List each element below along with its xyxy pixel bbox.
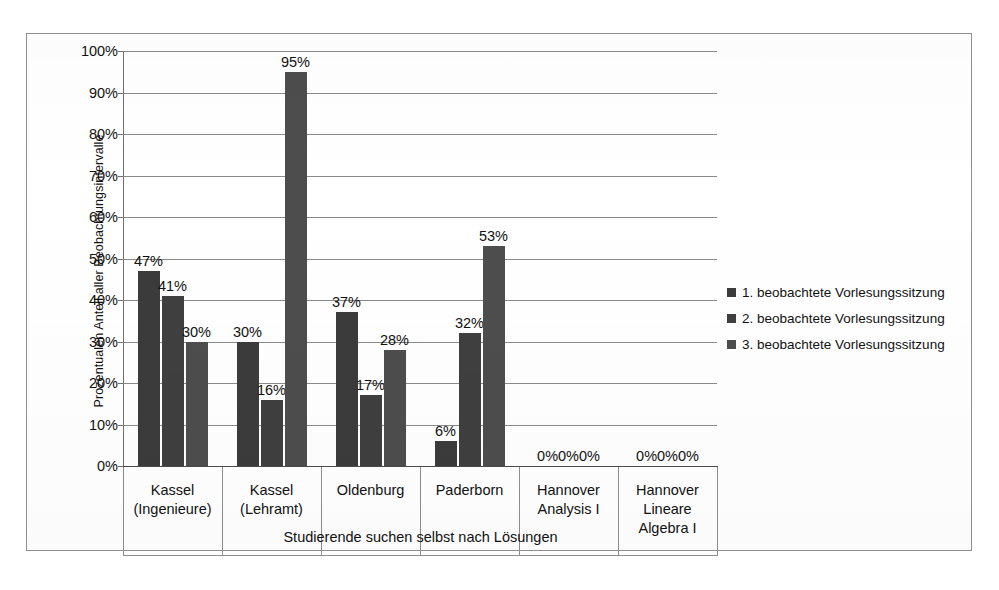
category-label-line: Kassel <box>222 481 321 500</box>
category-label: Oldenburg <box>321 481 420 500</box>
legend-item-label: 2. beobachtete Vorlesungssitzung <box>742 311 945 326</box>
gridline <box>123 259 717 260</box>
bar <box>285 72 307 466</box>
legend-swatch-icon <box>727 314 736 323</box>
bar <box>435 441 457 466</box>
category-label-line: (Lehramt) <box>222 500 321 519</box>
y-axis-ticks: 100%90%80%70%60%50%40%30%20%10%0% <box>65 51 118 467</box>
category-label-line: Oldenburg <box>321 481 420 500</box>
gridline <box>123 300 717 301</box>
bar <box>237 342 259 467</box>
legend-swatch-icon <box>727 340 736 349</box>
gridline <box>123 176 717 177</box>
y-axis-tick-label: 10% <box>68 418 118 433</box>
gridline <box>123 383 717 384</box>
category-label-line: Hannover <box>519 481 618 500</box>
y-axis-tick-label: 100% <box>68 44 118 59</box>
category-band-bottom-border <box>123 555 718 556</box>
category-label-line: Analysis I <box>519 500 618 519</box>
y-axis-tick-label: 20% <box>68 376 118 391</box>
y-axis-tick-label: 70% <box>68 169 118 184</box>
category-label: Kassel(Lehramt) <box>222 481 321 519</box>
bar-value-label-zero-group: 0%0%0% <box>531 449 606 464</box>
category-label: Kassel(Ingenieure) <box>123 481 222 519</box>
category-label-line: Lineare <box>618 500 717 519</box>
bar-value-label: 41% <box>153 279 193 294</box>
gridline <box>123 342 717 343</box>
category-label: Paderborn <box>420 481 519 500</box>
gridline <box>123 425 717 426</box>
legend-item-label: 3. beobachtete Vorlesungssitzung <box>742 337 945 352</box>
chart-frame: Prozentualen Anteil aller Beobachtungsin… <box>26 33 972 551</box>
bar <box>384 350 406 466</box>
y-axis-tick-label: 80% <box>68 127 118 142</box>
y-axis-tick-label: 50% <box>68 252 118 267</box>
y-axis-tick-label: 90% <box>68 86 118 101</box>
gridline <box>123 217 717 218</box>
bar-value-label: 37% <box>327 295 367 310</box>
bar <box>162 296 184 466</box>
gridline <box>123 134 717 135</box>
chart-legend: 1. beobachtete Vorlesungssitzung2. beoba… <box>727 279 962 357</box>
bar-value-label: 53% <box>474 229 514 244</box>
legend-item[interactable]: 3. beobachtete Vorlesungssitzung <box>727 331 962 357</box>
gridline <box>123 51 717 52</box>
y-axis-tick-label: 40% <box>68 293 118 308</box>
bar <box>360 395 382 466</box>
plot-area: 47%41%30%30%16%95%37%17%28%6%32%53%0%0%0… <box>123 51 717 466</box>
bar <box>186 342 208 467</box>
gridline <box>123 93 717 94</box>
bar-value-label: 30% <box>177 325 217 340</box>
bar <box>261 400 283 466</box>
y-axis-tick-label: 30% <box>68 335 118 350</box>
bar-value-label: 28% <box>375 333 415 348</box>
bar-value-label: 30% <box>228 325 268 340</box>
bar <box>138 271 160 466</box>
y-axis-tick-label: 0% <box>68 459 118 474</box>
legend-item[interactable]: 2. beobachtete Vorlesungssitzung <box>727 305 962 331</box>
category-label-line: Paderborn <box>420 481 519 500</box>
category-label-line: Kassel <box>123 481 222 500</box>
bar <box>459 333 481 466</box>
bar-value-label-zero-group: 0%0%0% <box>630 449 705 464</box>
bar-value-label: 47% <box>129 254 169 269</box>
y-axis-tick-label: 60% <box>68 210 118 225</box>
category-label: HannoverAnalysis I <box>519 481 618 519</box>
bar <box>483 246 505 466</box>
legend-swatch-icon <box>727 288 736 297</box>
bar-value-label: 95% <box>276 55 316 70</box>
x-axis-title: Studierende suchen selbst nach Lösungen <box>123 529 718 545</box>
category-label-line: (Ingenieure) <box>123 500 222 519</box>
legend-item-label: 1. beobachtete Vorlesungssitzung <box>742 285 945 300</box>
category-label-line: Hannover <box>618 481 717 500</box>
legend-item[interactable]: 1. beobachtete Vorlesungssitzung <box>727 279 962 305</box>
